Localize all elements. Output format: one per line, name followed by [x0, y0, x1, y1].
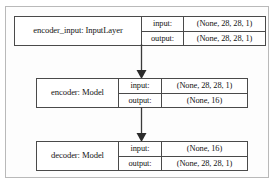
node-encoder-input-row: input: (None, 28, 28, 1): [119, 79, 247, 94]
node-encoder-input-label: encoder_input: InputLayer: [15, 17, 141, 45]
node-decoder-output-shape: (None, 28, 28, 1): [162, 157, 247, 171]
node-decoder-input-row: input: (None, 16): [119, 142, 247, 157]
node-encoder-output-row: output: (None, 16): [119, 94, 247, 108]
node-encoder-input-output-shape: (None, 28, 28, 1): [184, 32, 265, 46]
node-decoder-output-label: output:: [119, 157, 162, 171]
node-decoder-input-label: input:: [119, 142, 162, 156]
node-encoder-input-output-row: output: (None, 28, 28, 1): [142, 32, 265, 46]
node-encoder-input-input-label: input:: [142, 17, 184, 31]
node-encoder-input-label: input:: [119, 79, 162, 93]
node-encoder-input[interactable]: encoder_input: InputLayer input: (None, …: [14, 16, 266, 46]
edge-encoder-input-to-encoder: [130, 44, 154, 80]
diagram-canvas: encoder_input: InputLayer input: (None, …: [0, 0, 276, 189]
node-decoder-io: input: (None, 16) output: (None, 28, 28,…: [118, 142, 247, 170]
node-decoder-output-row: output: (None, 28, 28, 1): [119, 157, 247, 171]
node-encoder-input-shape: (None, 28, 28, 1): [162, 79, 247, 93]
node-encoder-input-io: input: (None, 28, 28, 1) output: (None, …: [141, 17, 265, 45]
node-encoder-input-input-row: input: (None, 28, 28, 1): [142, 17, 265, 32]
node-encoder-output-shape: (None, 16): [162, 94, 247, 108]
node-encoder-output-label: output:: [119, 94, 162, 108]
node-encoder-io: input: (None, 28, 28, 1) output: (None, …: [118, 79, 247, 107]
node-encoder-input-input-shape: (None, 28, 28, 1): [184, 17, 265, 31]
node-decoder-input-shape: (None, 16): [162, 142, 247, 156]
node-encoder-label: encoder: Model: [37, 79, 118, 107]
node-decoder-label: decoder: Model: [37, 142, 118, 170]
node-encoder[interactable]: encoder: Model input: (None, 28, 28, 1) …: [36, 78, 248, 108]
node-decoder[interactable]: decoder: Model input: (None, 16) output:…: [36, 141, 248, 171]
edge-encoder-to-decoder: [130, 107, 154, 143]
node-encoder-input-output-label: output:: [142, 32, 184, 46]
